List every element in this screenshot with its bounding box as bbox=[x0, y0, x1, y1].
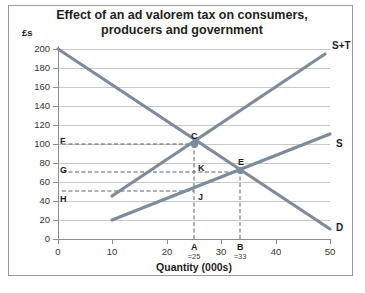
gridline-180 bbox=[58, 68, 330, 69]
point-label-H: H bbox=[60, 194, 67, 204]
ytick-label-20: 20 bbox=[16, 214, 50, 225]
point-sublabel-B: =33 bbox=[227, 252, 253, 261]
curve-label-S-plus-T: S+T bbox=[332, 40, 351, 51]
xtick-mark-10 bbox=[112, 240, 113, 244]
gridline-200 bbox=[58, 49, 330, 50]
ytick-label-160: 160 bbox=[16, 81, 50, 92]
x-axis-line bbox=[58, 239, 331, 240]
ytick-label-80: 80 bbox=[16, 157, 50, 168]
point-label-G: G bbox=[60, 165, 67, 175]
point-label-E: E bbox=[238, 157, 244, 167]
xtick-mark-40 bbox=[276, 240, 277, 244]
plot-area: 200 180 160 140 120 100 80 60 40 20 0 0 … bbox=[0, 0, 365, 293]
xtick-label-50: 50 bbox=[315, 246, 345, 257]
y-axis-line bbox=[58, 46, 59, 240]
ytick-label-100: 100 bbox=[16, 138, 50, 149]
point-label-A: A bbox=[191, 242, 198, 252]
gridline-160 bbox=[58, 87, 330, 88]
xtick-mark-20 bbox=[167, 240, 168, 244]
curve-label-D: D bbox=[336, 222, 343, 233]
ytick-label-0: 0 bbox=[16, 233, 50, 244]
point-label-F: F bbox=[60, 136, 66, 146]
xtick-mark-30 bbox=[221, 240, 222, 244]
point-label-K: K bbox=[198, 163, 205, 173]
point-label-C: C bbox=[191, 131, 198, 141]
xtick-label-20: 20 bbox=[152, 246, 182, 257]
gridline-40 bbox=[58, 201, 330, 202]
supply-curve-S bbox=[112, 134, 330, 220]
gridline-120 bbox=[58, 125, 330, 126]
xtick-mark-0 bbox=[58, 240, 59, 244]
gridline-80 bbox=[58, 163, 330, 164]
gridline-60 bbox=[58, 182, 330, 183]
curve-label-S: S bbox=[336, 138, 343, 149]
figure-caption bbox=[8, 281, 353, 292]
point-sublabel-A: =25 bbox=[181, 252, 207, 261]
gridline-20 bbox=[58, 220, 330, 221]
point-marker-E bbox=[237, 167, 244, 174]
xtick-label-40: 40 bbox=[261, 246, 291, 257]
ytick-label-180: 180 bbox=[16, 62, 50, 73]
point-marker-C bbox=[191, 141, 198, 148]
xtick-label-0: 0 bbox=[43, 246, 73, 257]
xtick-mark-50 bbox=[330, 240, 331, 244]
x-axis-title: Quantity (000s) bbox=[58, 261, 330, 273]
point-label-B: B bbox=[237, 242, 244, 252]
ytick-label-60: 60 bbox=[16, 176, 50, 187]
ytick-label-40: 40 bbox=[16, 195, 50, 206]
ytick-label-200: 200 bbox=[16, 43, 50, 54]
gridline-140 bbox=[58, 106, 330, 107]
ytick-label-140: 140 bbox=[16, 100, 50, 111]
xtick-label-10: 10 bbox=[97, 246, 127, 257]
ytick-label-120: 120 bbox=[16, 119, 50, 130]
point-label-J: J bbox=[198, 192, 203, 202]
